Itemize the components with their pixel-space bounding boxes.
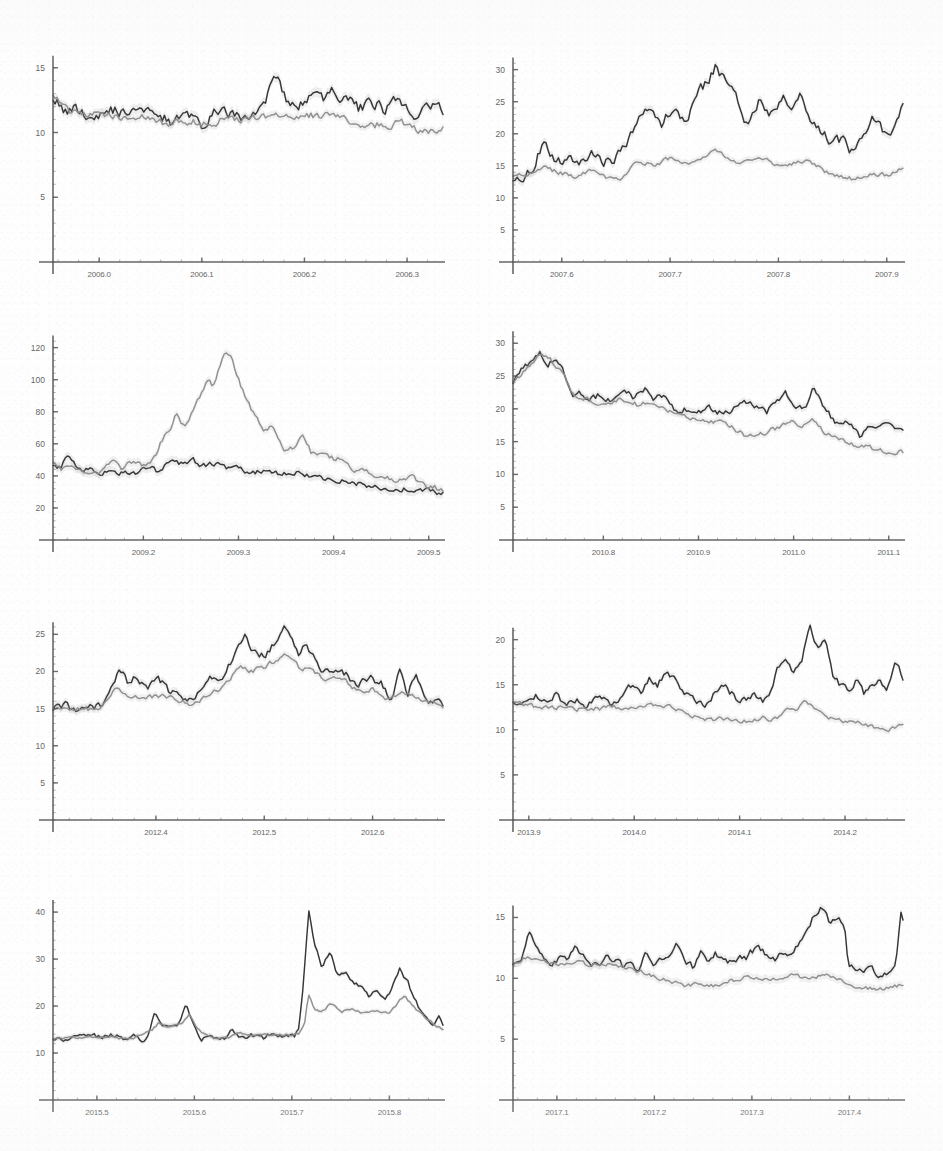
uncertainty-band-dark-series [513,622,903,713]
x-tick-label: 2015.5 [85,1108,109,1117]
plot-area [513,348,903,459]
x-tick-label: 2007.6 [550,270,574,279]
series-line-dark-series [513,625,903,708]
x-tick-label: 2011.1 [877,548,900,557]
plot-area [513,60,903,186]
plot-area [53,72,443,138]
y-tick-label: 10 [496,469,506,479]
x-tick-label: 2009.3 [227,548,251,557]
axes: 102030402015.52015.62015.72015.8 [36,900,445,1117]
x-tick-label: 2017.3 [740,1108,764,1117]
x-tick-label: 2007.7 [658,270,682,279]
y-tick-label: 30 [496,338,506,348]
chart-panel-2: 510152025302007.62007.72007.82007.9 [460,22,903,300]
y-tick-label: 15 [496,161,506,171]
uncertainty-band-dark-series [513,60,903,186]
plot-area [513,903,903,994]
x-tick-label: 2017.1 [545,1108,569,1117]
y-tick-label: 15 [496,437,506,447]
y-tick-label: 15 [496,912,506,922]
x-tick-label: 2012.4 [144,828,168,837]
x-tick-label: 2006.2 [293,270,317,279]
plot-area [53,349,443,499]
chart-svg: 510152017.12017.22017.32017.4 [460,860,903,1138]
y-tick-label: 15 [496,680,506,690]
axes: 51015202013.92014.02014.12014.2 [496,628,905,837]
chart-panel-6: 51015202013.92014.02014.12014.2 [460,580,903,858]
chart-svg: 204060801001202009.22009.32009.42009.5 [0,300,443,578]
y-tick-label: 80 [36,407,46,417]
chart-panel-4: 510152025302010.82010.92011.02011.1 [460,300,903,578]
uncertainty-band-dark-series [513,903,903,981]
x-tick-label: 2015.7 [280,1108,304,1117]
x-tick-label: 2014.2 [833,828,857,837]
plot-area [53,622,443,716]
y-tick-label: 25 [496,371,506,381]
y-tick-label: 5 [40,192,45,202]
y-tick-label: 100 [31,375,45,385]
y-tick-label: 20 [496,404,506,414]
plot-area [513,622,903,736]
y-tick-label: 20 [36,666,46,676]
axes: 510152006.02006.12006.22006.3 [36,56,445,279]
axes: 510152025302007.62007.72007.82007.9 [496,58,905,279]
x-tick-label: 2007.8 [767,270,791,279]
y-tick-label: 5 [500,502,505,512]
chart-svg: 102030402015.52015.62015.72015.8 [0,860,443,1138]
x-tick-label: 2012.6 [361,828,385,837]
x-tick-label: 2017.2 [643,1108,667,1117]
chart-svg: 51015202013.92014.02014.12014.2 [460,580,903,858]
y-tick-label: 25 [36,629,46,639]
x-tick-label: 2015.6 [183,1108,207,1117]
x-tick-label: 2010.9 [687,548,711,557]
uncertainty-band-light-series [53,650,443,714]
y-tick-label: 5 [500,770,505,780]
uncertainty-band-dark-series [53,908,443,1044]
y-tick-label: 15 [36,63,46,73]
y-tick-label: 10 [496,725,506,735]
x-tick-label: 2006.0 [88,270,112,279]
chart-panel-8: 510152017.12017.22017.32017.4 [460,860,903,1138]
y-tick-label: 20 [496,635,506,645]
axes: 510152017.12017.22017.32017.4 [496,905,905,1117]
y-tick-label: 20 [36,1001,46,1011]
y-tick-label: 15 [36,704,46,714]
x-tick-label: 2013.9 [517,828,541,837]
x-tick-label: 2015.8 [378,1108,402,1117]
y-tick-label: 10 [36,1048,46,1058]
chart-svg: 5101520252012.42012.52012.6 [0,580,443,858]
x-tick-label: 2006.1 [190,270,214,279]
y-tick-label: 120 [31,343,45,353]
y-tick-label: 40 [36,471,46,481]
figure-canvas: 510152006.02006.12006.22006.351015202530… [0,0,943,1151]
x-tick-label: 2007.9 [875,270,899,279]
y-tick-label: 10 [496,973,506,983]
y-tick-label: 10 [36,128,46,138]
series-line-dark-series [53,911,443,1042]
chart-svg: 510152025302007.62007.72007.82007.9 [460,22,903,300]
y-tick-label: 30 [496,65,506,75]
x-tick-label: 2010.8 [592,548,616,557]
x-tick-label: 2012.5 [253,828,277,837]
x-tick-label: 2014.1 [728,828,752,837]
x-tick-label: 2006.3 [395,270,419,279]
x-tick-label: 2017.4 [838,1108,862,1117]
x-tick-label: 2009.4 [322,548,346,557]
y-tick-label: 5 [500,1034,505,1044]
plot-area [53,908,443,1044]
chart-svg: 510152006.02006.12006.22006.3 [0,22,443,300]
chart-panel-7: 102030402015.52015.62015.72015.8 [0,860,443,1138]
y-tick-label: 5 [500,225,505,235]
chart-panel-5: 5101520252012.42012.52012.6 [0,580,443,858]
y-tick-label: 20 [496,129,506,139]
y-tick-label: 60 [36,439,46,449]
x-tick-label: 2009.2 [132,548,156,557]
x-tick-label: 2009.5 [417,548,441,557]
chart-panel-3: 204060801001202009.22009.32009.42009.5 [0,300,443,578]
y-tick-label: 10 [36,741,46,751]
y-tick-label: 20 [36,503,46,513]
y-tick-label: 40 [36,907,46,917]
y-tick-label: 5 [40,778,45,788]
x-tick-label: 2014.0 [623,828,647,837]
axes: 5101520252012.42012.52012.6 [36,622,445,837]
